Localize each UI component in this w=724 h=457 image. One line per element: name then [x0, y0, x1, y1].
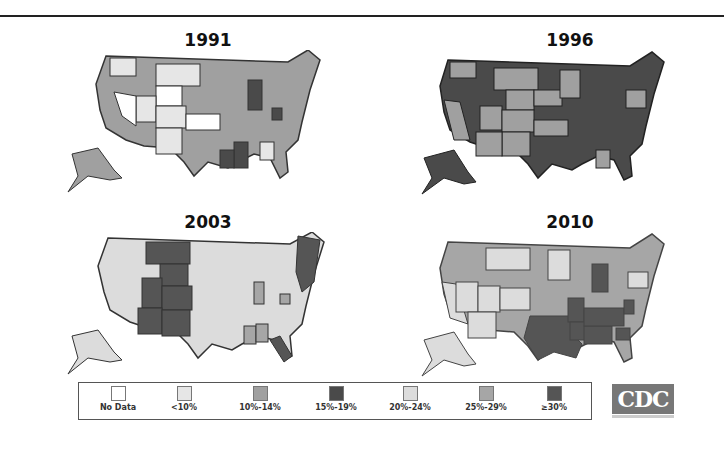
legend-label: 10%-14% — [225, 403, 295, 412]
us-map-2010 — [420, 232, 720, 387]
legend-item-lt10: <10% — [149, 386, 219, 412]
panel-title: 1991 — [58, 30, 358, 50]
legend-swatch — [329, 386, 344, 401]
panel-title: 2003 — [58, 212, 358, 232]
legend-label: ≥30% — [519, 403, 589, 412]
legend-item-no-data: No Data — [83, 386, 153, 412]
us-map-1996 — [420, 50, 720, 205]
legend-label: 25%-29% — [451, 403, 521, 412]
legend-swatch — [403, 386, 418, 401]
panel-title: 1996 — [420, 30, 720, 50]
legend-swatch — [547, 386, 562, 401]
map-panel-2003: 2003 — [58, 212, 358, 387]
legend-label: 20%-24% — [375, 403, 445, 412]
panel-title: 2010 — [420, 212, 720, 232]
us-map-1991 — [58, 50, 358, 205]
legend-swatch — [253, 386, 268, 401]
cdc-logo: CDC — [612, 384, 674, 414]
legend-label: 15%-19% — [301, 403, 371, 412]
legend-swatch — [177, 386, 192, 401]
legend-item-20-24: 20%-24% — [375, 386, 445, 412]
legend-item-15-19: 15%-19% — [301, 386, 371, 412]
legend-swatch — [479, 386, 494, 401]
legend-swatch — [111, 386, 126, 401]
map-panel-1996: 1996 — [420, 30, 720, 205]
legend-label: <10% — [149, 403, 219, 412]
legend-item-25-29: 25%-29% — [451, 386, 521, 412]
map-panel-2010: 2010 — [420, 212, 720, 387]
us-map-2003 — [58, 232, 358, 387]
cdc-logo-tagline — [612, 415, 674, 418]
legend-item-gte30: ≥30% — [519, 386, 589, 412]
header-rule — [0, 15, 724, 17]
map-panel-1991: 1991 — [58, 30, 358, 205]
map-legend: No Data <10% 10%-14% 15%-19% 20%-24% 25%… — [78, 382, 592, 420]
legend-item-10-14: 10%-14% — [225, 386, 295, 412]
legend-label: No Data — [83, 403, 153, 412]
